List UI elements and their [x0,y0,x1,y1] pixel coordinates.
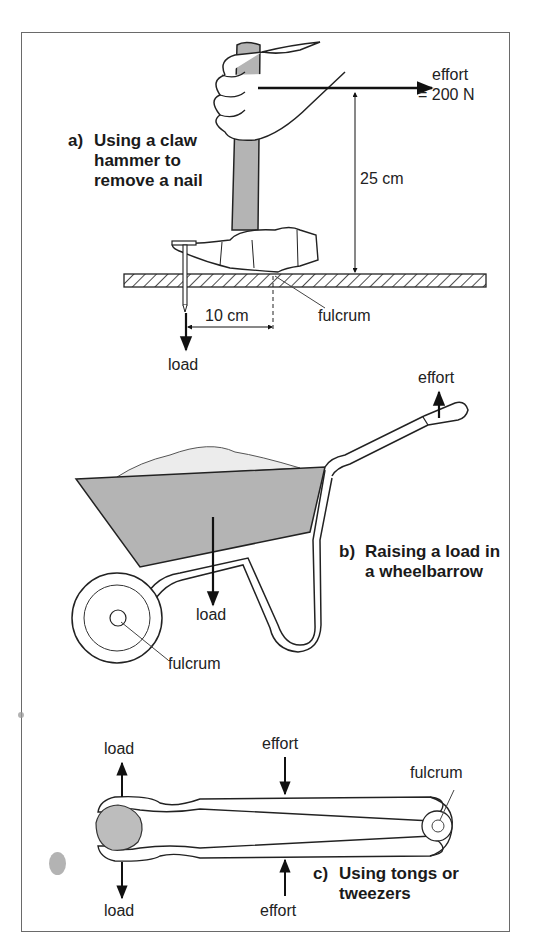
caption-c-line1: Using tongs or [339,864,459,884]
load-bottom-label-c: load [104,902,134,920]
effort-bottom-label-c: effort [260,902,296,920]
effort-label-a: effort [432,66,468,84]
distance-10cm: 10 cm [205,307,249,325]
caption-a-line1: Using a claw [94,131,197,151]
effort-top-label-c: effort [262,735,298,753]
fulcrum-label-a: fulcrum [318,307,370,325]
fulcrum-label-c: fulcrum [410,764,462,782]
caption-a-line3: remove a nail [94,171,203,191]
caption-b-tag: b) [339,542,355,562]
caption-b: b) Raising a load in a wheelbarrow [339,542,519,584]
load-label-b: load [196,606,226,624]
distance-25cm: 25 cm [360,170,404,188]
load-label-a: load [168,356,198,374]
print-smudge [18,712,24,718]
caption-b-line1: Raising a load in [365,542,500,562]
effort-value-a: = 200 N [418,86,474,104]
caption-c: c) Using tongs or tweezers [313,864,493,906]
print-blot [49,852,66,875]
fulcrum-label-b: fulcrum [168,655,220,673]
caption-b-line2: a wheelbarrow [365,562,483,582]
load-top-label-c: load [104,740,134,758]
wheelbarrow-illustration [72,392,468,663]
caption-c-line2: tweezers [339,884,411,904]
plank [124,274,486,287]
caption-c-tag: c) [313,864,328,884]
effort-label-b: effort [418,369,454,387]
caption-a: a) Using a claw hammer to remove a nail [68,131,268,193]
caption-a-line2: hammer to [94,151,181,171]
caption-a-tag: a) [68,131,83,151]
